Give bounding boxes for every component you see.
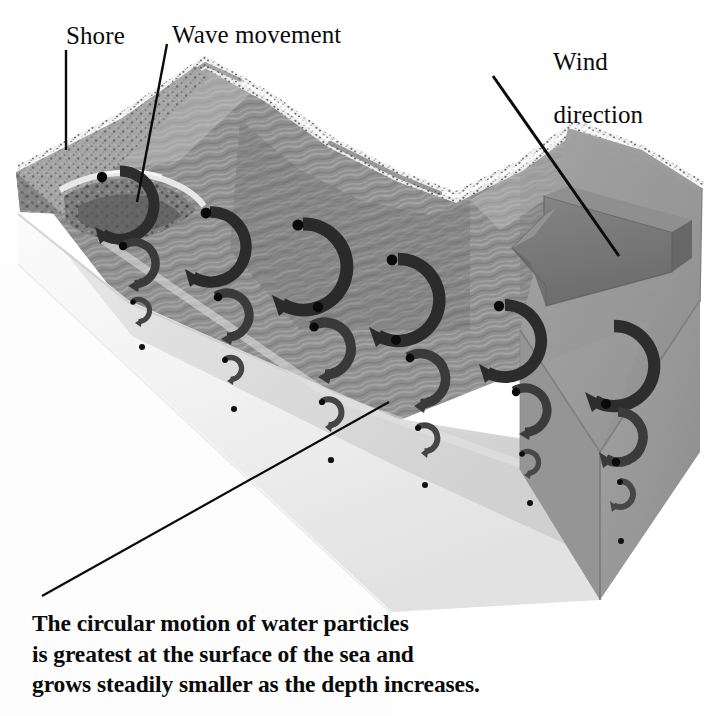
particle-dot-icon bbox=[214, 293, 223, 302]
particle-dot-icon bbox=[406, 354, 415, 363]
particle-dot-icon bbox=[97, 172, 107, 182]
particle-dot-icon bbox=[519, 451, 525, 457]
particle-dot-icon bbox=[222, 357, 228, 363]
caption-line-3: grows steadily smaller as the depth incr… bbox=[32, 669, 552, 700]
particle-dot-icon bbox=[292, 219, 303, 230]
particle-dot-icon bbox=[309, 322, 318, 331]
particle-dot-icon bbox=[415, 425, 421, 431]
particle-dot-icon bbox=[494, 301, 504, 311]
particle-dot-icon bbox=[119, 242, 127, 250]
particle-dot-icon bbox=[231, 406, 237, 412]
particle-dot-icon bbox=[130, 299, 136, 305]
particle-dot-icon bbox=[527, 500, 533, 506]
particle-dot-icon bbox=[391, 335, 401, 345]
particle-dot-icon bbox=[601, 399, 611, 409]
label-wind-direction-line2: direction bbox=[553, 101, 643, 128]
particle-dot-icon bbox=[612, 458, 621, 467]
figure-caption: The circular motion of water particles i… bbox=[32, 608, 552, 700]
label-wind-direction: Wind direction bbox=[528, 22, 643, 155]
particle-dot-icon bbox=[512, 388, 520, 396]
particle-dot-icon bbox=[313, 302, 323, 312]
particle-dot-icon bbox=[387, 255, 398, 266]
particle-dot-icon bbox=[319, 399, 325, 405]
particle-dot-icon bbox=[618, 538, 624, 544]
particle-dot-icon bbox=[139, 344, 145, 350]
label-wave-movement: Wave movement bbox=[172, 22, 341, 49]
particle-dot-icon bbox=[422, 482, 428, 488]
caption-line-1: The circular motion of water particles bbox=[32, 608, 552, 639]
label-shore: Shore bbox=[66, 23, 125, 50]
particle-dot-icon bbox=[328, 457, 334, 463]
wave-motion-figure: Shore Wave movement Wind direction The c… bbox=[0, 0, 715, 716]
particle-dot-icon bbox=[201, 208, 212, 219]
particle-dot-icon bbox=[617, 479, 623, 485]
caption-line-2: is greatest at the surface of the sea an… bbox=[32, 639, 552, 670]
label-wind-direction-line1: Wind bbox=[553, 48, 608, 75]
